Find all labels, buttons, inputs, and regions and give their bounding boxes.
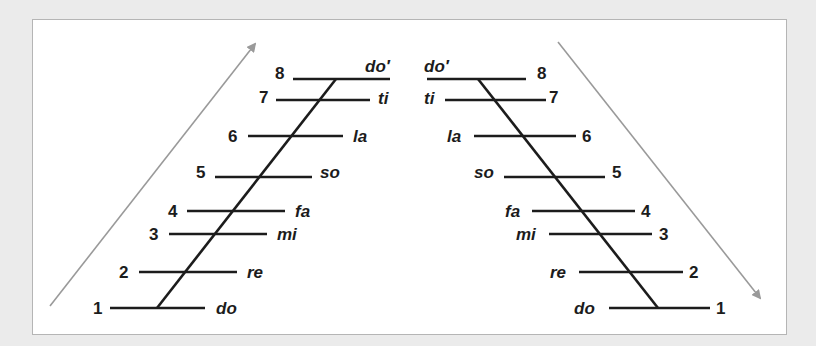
desc-syllable-do-high: do′ — [424, 57, 450, 76]
desc-degree-1: 1 — [716, 299, 725, 318]
desc-degree-8: 8 — [537, 64, 546, 83]
desc-syllable-do: do — [574, 299, 595, 318]
asc-syllable-mi: mi — [277, 225, 298, 244]
desc-syllable-re: re — [550, 263, 566, 282]
desc-syllable-so: so — [474, 163, 494, 182]
asc-syllable-so: so — [320, 163, 340, 182]
descending-ladder — [427, 79, 710, 308]
asc-degree-3: 3 — [149, 225, 158, 244]
desc-degree-6: 6 — [582, 127, 591, 146]
asc-syllable-fa: fa — [295, 202, 310, 221]
desc-syllable-fa: fa — [505, 202, 520, 221]
asc-degree-6: 6 — [228, 127, 237, 146]
asc-degree-4: 4 — [168, 202, 178, 221]
desc-degree-5: 5 — [612, 163, 621, 182]
asc-syllable-do-high: do′ — [365, 57, 391, 76]
asc-syllable-la: la — [353, 127, 367, 146]
asc-degree-1: 1 — [93, 299, 102, 318]
solfege-diagram: 1 2 3 4 5 6 7 8 do re mi fa so la ti do′… — [0, 0, 816, 346]
descending-arrow-icon — [558, 42, 760, 298]
desc-syllable-mi: mi — [516, 225, 537, 244]
desc-syllable-la: la — [447, 127, 461, 146]
desc-degree-4: 4 — [641, 202, 651, 221]
asc-degree-7: 7 — [259, 88, 268, 107]
desc-degree-2: 2 — [689, 263, 698, 282]
asc-degree-5: 5 — [196, 163, 205, 182]
asc-syllable-do: do — [216, 299, 237, 318]
asc-syllable-ti: ti — [378, 89, 390, 108]
ascending-arrow-icon — [50, 44, 255, 306]
asc-degree-2: 2 — [119, 263, 128, 282]
asc-syllable-re: re — [247, 263, 263, 282]
desc-degree-7: 7 — [549, 88, 558, 107]
desc-syllable-ti: ti — [424, 89, 436, 108]
desc-degree-3: 3 — [659, 225, 668, 244]
asc-degree-8: 8 — [275, 64, 284, 83]
